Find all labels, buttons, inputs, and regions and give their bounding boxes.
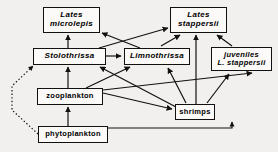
node-label-line2: microlepis [50, 20, 93, 29]
edge-limnothrissa-to-lates-stappersii [161, 35, 180, 46]
node-label-line1: phytoplankton [45, 130, 101, 138]
node-lates-stappersii[interactable]: Lates stappersii [170, 7, 227, 33]
node-juveniles-lates-stappersii[interactable]: juveniles L. stappersii [211, 47, 272, 71]
node-label-line2: L. stappersii [217, 59, 265, 67]
food-web-diagram: Lates microlepis Lates stappersii Stolot… [0, 0, 278, 152]
node-stolothrissa[interactable]: Stolothrissa [33, 48, 106, 65]
edge-phytoplankton-to-shrimps [108, 122, 232, 128]
edge-zooplankton-to-limnothrissa [86, 67, 130, 88]
node-label-line1: zooplankton [46, 92, 93, 100]
node-lates-microlepis[interactable]: Lates microlepis [43, 7, 100, 33]
edge-juveniles-to-lates-stappersii [217, 35, 232, 46]
node-label-line2: stappersii [178, 20, 219, 29]
node-shrimps[interactable]: shrimps [175, 104, 215, 120]
edge-zooplankton-to-shrimps [103, 93, 172, 109]
edge-phytoplankton-to-stolothrissa-dotted [12, 66, 38, 134]
node-label-line1: Stolothrissa [45, 52, 95, 61]
edge-shrimps-to-limnothrissa [168, 68, 186, 103]
node-phytoplankton[interactable]: phytoplankton [38, 126, 108, 143]
node-label-line1: Limnothrissa [130, 52, 184, 61]
node-zooplankton[interactable]: zooplankton [37, 88, 103, 105]
node-label-line1: shrimps [179, 108, 210, 116]
node-limnothrissa[interactable]: Limnothrissa [124, 48, 190, 65]
